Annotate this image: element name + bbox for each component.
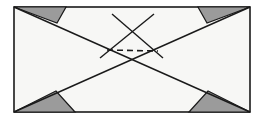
- geometry-figure: [0, 0, 265, 119]
- figure-canvas: [0, 0, 265, 119]
